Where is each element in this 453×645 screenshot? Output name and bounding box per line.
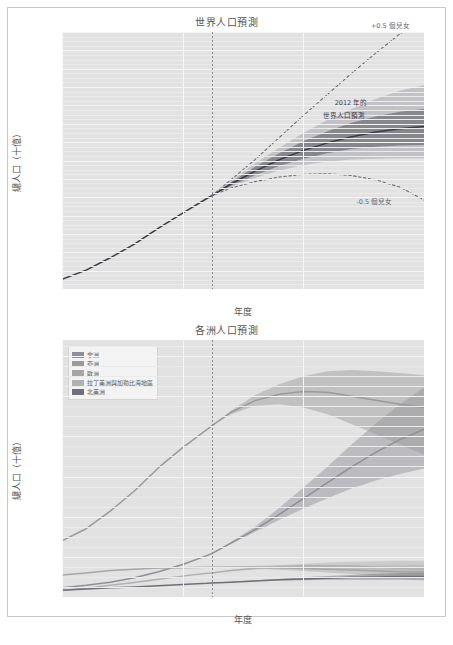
gridline-horizontal [62, 138, 424, 139]
gridline-horizontal [62, 216, 424, 217]
gridline-horizontal [62, 426, 424, 427]
gridline-horizontal [62, 225, 424, 226]
gridline-horizontal [62, 151, 424, 152]
gridline-horizontal [62, 271, 424, 272]
gridline-horizontal [62, 275, 424, 276]
legend-item-label: 北美洲 [87, 387, 105, 396]
gridline-horizontal [62, 78, 424, 79]
annotation-median-line1: 2012 年的 [335, 99, 368, 108]
gridline-horizontal [62, 248, 424, 249]
panel-continental-population: 各洲人口預測 總人口（十億） 年度 非洲亞洲歐洲拉丁美洲與加勒比海地區北美洲 0… [10, 318, 443, 623]
gridline-horizontal [62, 174, 424, 175]
gridline-horizontal [62, 101, 424, 102]
gridline-horizontal [62, 128, 424, 129]
legend-item[interactable]: 北美洲 [72, 387, 153, 396]
gridline-horizontal [62, 386, 424, 387]
gridline-horizontal [62, 243, 424, 244]
gridline-horizontal [62, 87, 424, 88]
gridline-vertical [183, 340, 184, 597]
gridline-horizontal [62, 133, 424, 134]
annotation-plus-half-child: +0.5 個兒女 [371, 22, 410, 31]
reference-year-line [212, 340, 213, 597]
gridline-horizontal [62, 211, 424, 212]
gridline-horizontal [62, 537, 424, 538]
gridline-horizontal [62, 266, 424, 267]
legend-swatch-icon [72, 389, 84, 395]
gridline-horizontal [62, 436, 424, 437]
gridline-horizontal [62, 376, 424, 377]
gridline-horizontal [62, 416, 424, 417]
gridline-horizontal [62, 487, 424, 488]
gridline-horizontal [62, 64, 424, 65]
gridline-horizontal [62, 497, 424, 498]
gridline-horizontal [62, 280, 424, 281]
x-axis-title-world: 年度 [62, 305, 424, 318]
gridline-horizontal [62, 179, 424, 180]
gridline-horizontal [62, 193, 424, 194]
gridline-horizontal [62, 234, 424, 235]
gridline-horizontal [62, 229, 424, 230]
gridline-horizontal [62, 396, 424, 397]
gridline-horizontal [62, 284, 424, 285]
legend-item-label: 非洲 [87, 350, 99, 359]
gridline-horizontal [62, 587, 424, 588]
gridline-horizontal [62, 557, 424, 558]
gridline-horizontal [62, 73, 424, 74]
gridline-horizontal [62, 170, 424, 171]
gridline-horizontal [62, 466, 424, 467]
gridline-vertical [62, 32, 63, 289]
gridline-horizontal [62, 257, 424, 258]
gridline-horizontal [62, 32, 424, 33]
gridline-horizontal [62, 165, 424, 166]
gridline-horizontal [62, 252, 424, 253]
gridline-horizontal [62, 156, 424, 157]
gridline-horizontal [62, 507, 424, 508]
gridline-horizontal [62, 37, 424, 38]
gridline-horizontal [62, 366, 424, 367]
gridline-horizontal [62, 105, 424, 106]
gridline-horizontal [62, 547, 424, 548]
gridline-horizontal [62, 60, 424, 61]
legend-item[interactable]: 亞洲 [72, 359, 153, 368]
panel-world-population: 世界人口預測 總人口（十億） 年度 2345678910111213141516… [10, 10, 443, 315]
plot-area-continents: 非洲亞洲歐洲拉丁美洲與加勒比海地區北美洲 0123456195020002050… [62, 340, 424, 597]
plot-area-world: 23456789101112131415161950200020502100 [62, 32, 424, 289]
annotation-median-line2: 世界人口預測 [323, 112, 365, 121]
gridline-horizontal [62, 142, 424, 143]
gridline-horizontal [62, 110, 424, 111]
legend-item[interactable]: 非洲 [72, 350, 153, 359]
chart-title-continents: 各洲人口預測 [10, 322, 443, 337]
figure-page: 世界人口預測 總人口（十億） 年度 2345678910111213141516… [0, 0, 453, 645]
gridline-horizontal [62, 161, 424, 162]
gridline-horizontal [62, 517, 424, 518]
gridline-horizontal [62, 456, 424, 457]
legend-item-label: 亞洲 [87, 359, 99, 368]
gridline-horizontal [62, 261, 424, 262]
gridline-horizontal [62, 124, 424, 125]
gridline-horizontal [62, 446, 424, 447]
gridline-horizontal [62, 188, 424, 189]
reference-year-line [212, 32, 213, 289]
annotation-minus-half-child: -0.5 個兒女 [356, 198, 392, 207]
gridline-horizontal [62, 577, 424, 578]
gridline-horizontal [62, 356, 424, 357]
gridline-horizontal [62, 46, 424, 47]
gridline-horizontal [62, 527, 424, 528]
gridline-horizontal [62, 119, 424, 120]
gridline-vertical [183, 32, 184, 289]
gridline-horizontal [62, 239, 424, 240]
gridline-horizontal [62, 183, 424, 184]
gridline-vertical [303, 340, 304, 597]
y-axis-title-world: 總人口（十億） [10, 110, 23, 210]
gridline-horizontal [62, 55, 424, 56]
gridline-horizontal [62, 41, 424, 42]
x-axis-title-continents: 年度 [62, 613, 424, 626]
legend-swatch-icon [72, 380, 84, 386]
legend-continents[interactable]: 非洲亞洲歐洲拉丁美洲與加勒比海地區北美洲 [68, 346, 158, 400]
gridline-horizontal [62, 82, 424, 83]
gridline-horizontal [62, 96, 424, 97]
gridline-vertical [62, 340, 63, 597]
gridline-horizontal [62, 567, 424, 568]
gridline-horizontal [62, 147, 424, 148]
gridline-horizontal [62, 115, 424, 116]
